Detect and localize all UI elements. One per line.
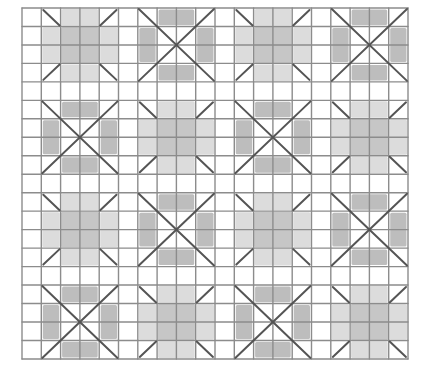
corner-stub-icon [140, 157, 156, 172]
corner-stub-icon [197, 287, 213, 302]
quilt-diagram [0, 0, 421, 384]
corner-stub-icon [333, 102, 349, 117]
corner-stub-icon [43, 64, 59, 79]
corner-stub-icon [43, 195, 59, 210]
corner-stub-icon [140, 102, 156, 117]
corner-stub-icon [333, 287, 349, 302]
corner-stub-icon [390, 157, 406, 172]
corner-stub-icon [333, 341, 349, 356]
quilt-grid-svg [0, 0, 421, 384]
corner-stub-icon [100, 64, 116, 79]
corner-stub-icon [236, 195, 252, 210]
corner-stub-icon [293, 195, 309, 210]
corner-stub-icon [236, 249, 252, 264]
corner-stub-icon [43, 249, 59, 264]
corner-stub-icon [293, 249, 309, 264]
corner-stub-icon [43, 10, 59, 25]
corner-stub-icon [236, 10, 252, 25]
corner-stub-icon [197, 341, 213, 356]
corner-stub-icon [293, 10, 309, 25]
corner-stub-icon [236, 64, 252, 79]
grid-lines [22, 8, 408, 359]
corner-stub-icon [197, 157, 213, 172]
corner-stub-icon [390, 287, 406, 302]
corner-stub-icon [333, 157, 349, 172]
corner-stub-icon [293, 64, 309, 79]
corner-stub-icon [390, 102, 406, 117]
corner-stub-icon [140, 341, 156, 356]
corner-stub-icon [100, 195, 116, 210]
corner-stub-icon [140, 287, 156, 302]
corner-stub-icon [197, 102, 213, 117]
corner-stub-icon [100, 249, 116, 264]
corner-stub-icon [100, 10, 116, 25]
corner-stub-icon [390, 341, 406, 356]
